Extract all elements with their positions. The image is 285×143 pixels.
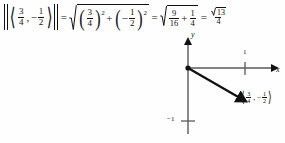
- paren-close-2: ): [137, 7, 142, 30]
- norm-expression: ⟨ 3 4 , − 1 2 ⟩: [4, 4, 58, 30]
- coordinate-plane-diagram: y x 1 −1 ⟨ 3 4 , − 1 2 ⟩: [160, 30, 285, 143]
- term1-first-exponent: 2: [101, 9, 105, 17]
- radical-sign-1: [69, 4, 77, 31]
- term2-first-denominator: 16: [169, 18, 180, 28]
- term1-first-denominator: 4: [87, 18, 94, 28]
- result-radicand: 13: [216, 7, 226, 17]
- term1-first-fraction: 3 4: [86, 8, 94, 27]
- term1-second-sign: −: [122, 12, 129, 24]
- lhs-x-component: 3 4: [17, 7, 25, 26]
- x-tick-label-1: 1: [243, 48, 247, 56]
- axes-svg: [160, 30, 285, 143]
- radicand-2: 9 16 + 1 4: [167, 5, 198, 29]
- y-tick-label-minus-1: −1: [167, 115, 174, 123]
- norm-bar-right: [54, 4, 58, 30]
- result-numerator: 13: [210, 7, 227, 17]
- term2-second-denominator: 4: [190, 18, 196, 28]
- vector-label-y-denominator: 2: [262, 97, 267, 104]
- term1-second-exponent: 2: [144, 9, 148, 17]
- angle-bracket-open: ⟨: [10, 5, 16, 29]
- term2-first-numerator: 9: [171, 9, 177, 18]
- equals-sign-1: =: [58, 11, 69, 23]
- plus-sign-1: +: [105, 12, 114, 24]
- term2-second-fraction: 1 4: [189, 9, 196, 27]
- radical-term-2: 9 16 + 1 4: [160, 5, 198, 29]
- paren-open-2: (: [115, 7, 120, 30]
- vector-arrow: [188, 68, 240, 98]
- x-axis-label: x: [276, 65, 280, 74]
- term2-second-numerator: 1: [190, 9, 196, 18]
- angle-bracket-close: ⟩: [47, 5, 53, 29]
- magnitude-equation: ⟨ 3 4 , − 1 2 ⟩ = (: [4, 1, 284, 33]
- radical-sign-2: [160, 5, 167, 29]
- plus-sign-2: +: [180, 12, 189, 24]
- vector-label-x-denominator: 4: [246, 97, 251, 104]
- norm-bar-left: [4, 4, 8, 30]
- radicand-1: ( 3 4 ) 2 + ( − 1 2 ) 2: [77, 4, 149, 31]
- result-fraction: 13 4: [209, 7, 227, 26]
- y-axis-label: y: [191, 30, 195, 39]
- paren-open-1: (: [80, 7, 85, 30]
- radical-term-1: ( 3 4 ) 2 + ( − 1 2 ) 2: [69, 4, 149, 31]
- equals-sign-3: =: [198, 11, 209, 23]
- term1-first-numerator: 3: [87, 8, 94, 17]
- term1-second-fraction: 1 2: [128, 8, 136, 27]
- term1-second-numerator: 1: [129, 8, 136, 17]
- term1-second-denominator: 2: [129, 18, 136, 28]
- lhs-y-denominator: 2: [38, 17, 45, 27]
- lhs-y-sign: −: [31, 11, 38, 23]
- vector-label-bracket-close: ⟩: [269, 90, 273, 105]
- vector-label-y: 1 2: [261, 91, 267, 104]
- lhs-x-denominator: 4: [18, 17, 25, 27]
- lhs-y-component: 1 2: [37, 7, 45, 26]
- result-denominator: 4: [215, 17, 221, 26]
- term2-first-fraction: 9 16: [168, 9, 180, 27]
- vector-point-label: ⟨ 3 4 , − 1 2 ⟩: [240, 90, 273, 105]
- paren-close-1: ): [95, 7, 100, 30]
- equals-sign-2: =: [149, 11, 160, 23]
- vector-magnitude-figure: ⟨ 3 4 , − 1 2 ⟩ = (: [0, 0, 285, 143]
- vector-label-bracket-open: ⟨: [241, 90, 245, 105]
- lhs-x-numerator: 3: [18, 7, 25, 16]
- lhs-y-numerator: 1: [38, 7, 45, 16]
